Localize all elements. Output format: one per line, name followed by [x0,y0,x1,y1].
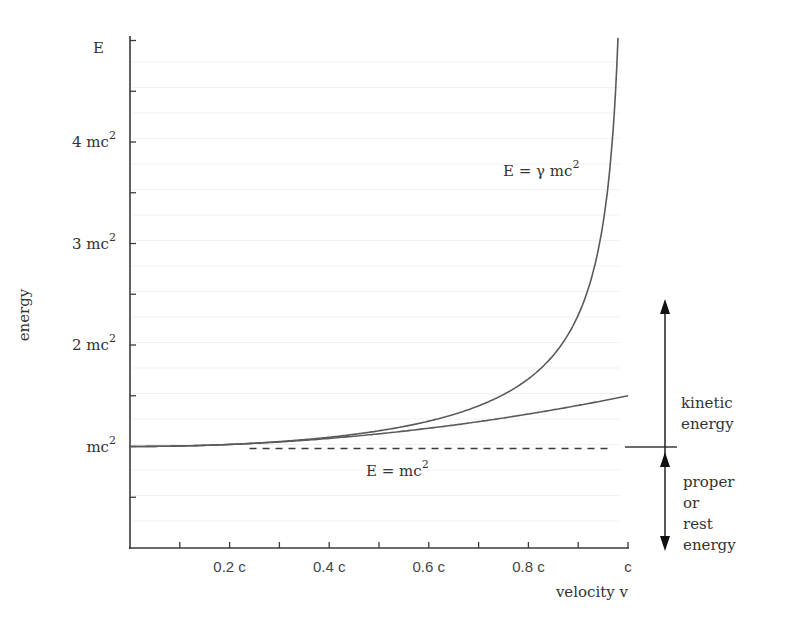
y-tick-label: E [93,39,104,57]
kinetic-energy-label: kinetic energy [681,394,737,433]
kinetic-energy-arrow [660,299,670,447]
x-tick-label: 0.4 c [313,558,346,575]
x-tick-label: 0.6 c [413,558,446,575]
y-axis-title: energy [15,288,33,341]
arrow-up-icon [660,299,670,314]
rest-energy-annotation: proper or rest energy [683,473,739,554]
y-tick-label: mc2 [86,434,116,456]
x-tick-labels: 0.2 c0.4 c0.6 c0.8 cc [213,558,632,575]
y-tick-label: 4 mc2 [72,129,116,151]
gamma-curve-label: E = γ mc2 [503,158,579,180]
x-tick-label: 0.2 c [213,558,246,575]
x-tick-label: 0.8 c [512,558,545,575]
arrow-up-icon [660,452,670,467]
classical-energy-curve [130,396,628,447]
x-axis-ticks [180,542,628,548]
y-axis-ticks [130,41,136,498]
rest-energy-label: E = mc2 [366,458,429,480]
y-tick-labels: mc22 mc23 mc24 mc2E [72,39,116,456]
y-tick-label: 3 mc2 [72,231,116,253]
rest-energy-arrow [660,447,670,551]
x-axis-title: velocity v [555,583,629,601]
arrow-down-icon [660,536,670,551]
x-tick-label: c [624,558,632,575]
y-tick-label: 2 mc2 [72,332,116,354]
faint-gridlines [132,62,620,521]
relativistic-energy-curve [130,38,618,447]
energy-velocity-chart: mc22 mc23 mc24 mc2E 0.2 c0.4 c0.6 c0.8 c… [0,0,785,632]
